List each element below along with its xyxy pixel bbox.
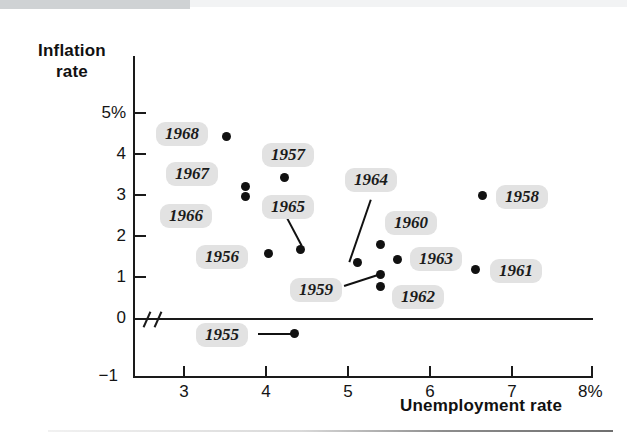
data-point-1956 xyxy=(264,249,273,258)
point-label-1958: 1958 xyxy=(496,185,548,209)
point-label-1957: 1957 xyxy=(262,143,314,167)
x-tick-6 xyxy=(429,366,431,376)
y-tick-label-neg1: −1 xyxy=(74,366,118,386)
x-tick-8 xyxy=(591,366,593,376)
y-tick-1 xyxy=(135,276,146,278)
x-axis-line xyxy=(133,376,593,378)
x-axis-title: Unemployment rate xyxy=(400,396,562,416)
y-axis-title-line1: Inflation xyxy=(38,41,106,60)
point-label-1955: 1955 xyxy=(196,323,248,347)
data-point-1958 xyxy=(478,191,487,200)
x-tick-7 xyxy=(511,366,513,376)
y-axis-title-line2: rate xyxy=(56,62,88,81)
data-point-1960 xyxy=(376,240,385,249)
top-gray-strip xyxy=(0,0,190,9)
y-tick-label-1: 1 xyxy=(82,267,126,287)
data-point-1961 xyxy=(471,265,480,274)
y-tick-label-4: 4 xyxy=(82,144,126,164)
point-label-1966: 1966 xyxy=(160,204,212,228)
y-tick-2 xyxy=(135,235,146,237)
data-point-1959 xyxy=(376,282,385,291)
x-tick-label-3: 3 xyxy=(164,382,204,402)
point-label-1961: 1961 xyxy=(490,259,542,283)
y-tick-3 xyxy=(135,194,146,196)
leader-line-1955 xyxy=(258,333,294,335)
point-label-1965: 1965 xyxy=(262,195,314,219)
y-tick-label-2: 2 xyxy=(82,226,126,246)
leader-line-1962 xyxy=(344,273,381,286)
point-label-1968: 1968 xyxy=(156,122,208,146)
data-point-1968 xyxy=(222,132,231,141)
y-axis-title: Inflation rate xyxy=(22,40,122,82)
x-tick-label-5: 5 xyxy=(328,382,368,402)
top-light-strip xyxy=(190,0,627,7)
x-tick-3 xyxy=(183,366,185,376)
y-axis-line-lower xyxy=(133,320,135,378)
chart-canvas: 5% 4 3 2 1 0 −1 3 4 5 6 7 8% Inflation r… xyxy=(0,0,627,444)
data-point-1965 xyxy=(296,245,305,254)
y-tick-5 xyxy=(135,112,146,114)
x-tick-label-4: 4 xyxy=(246,382,286,402)
x-tick-label-8: 8% xyxy=(578,382,626,402)
data-point-1966 xyxy=(241,192,250,201)
y-tick-label-5: 5% xyxy=(82,103,126,123)
y-axis-line xyxy=(133,56,135,320)
y-tick-4 xyxy=(135,153,146,155)
point-label-1960: 1960 xyxy=(385,211,437,235)
bottom-rule xyxy=(48,430,613,432)
data-point-1963 xyxy=(393,255,402,264)
point-label-1956: 1956 xyxy=(196,245,248,269)
data-point-1964 xyxy=(353,258,362,267)
data-point-1967 xyxy=(241,182,250,191)
x-tick-5 xyxy=(347,366,349,376)
zero-line xyxy=(133,318,593,320)
y-tick-label-3: 3 xyxy=(82,185,126,205)
x-tick-4 xyxy=(265,366,267,376)
point-label-1959: 1962 xyxy=(392,285,444,309)
point-label-1964: 1964 xyxy=(345,168,397,192)
point-label-1962: 1959 xyxy=(290,278,342,302)
leader-line-1964 xyxy=(349,200,372,263)
point-label-1963: 1963 xyxy=(410,247,462,271)
point-label-1967: 1967 xyxy=(166,162,218,186)
data-point-1957 xyxy=(280,173,289,182)
y-tick-label-0: 0 xyxy=(82,308,126,328)
